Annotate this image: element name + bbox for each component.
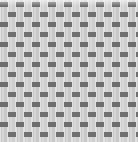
weave-pattern-svg xyxy=(0,0,138,142)
woven-fabric-texture xyxy=(0,0,138,142)
top-edge-fade xyxy=(0,0,138,6)
